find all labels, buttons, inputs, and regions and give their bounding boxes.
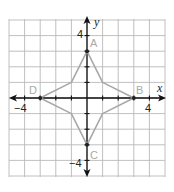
- vertex-d: [38, 96, 42, 100]
- point-label-a: A: [90, 37, 98, 49]
- vertex-a: [85, 49, 89, 53]
- vertex-c: [85, 143, 89, 147]
- y-axis-label: y: [93, 15, 100, 29]
- x-axis-label: x: [156, 81, 163, 95]
- x-tick-label-4: 4: [145, 102, 151, 114]
- point-label-c: C: [90, 149, 98, 161]
- axes: [9, 16, 166, 177]
- x-tick-label-neg4: −4: [14, 102, 27, 114]
- y-tick-label-neg4: −4: [69, 157, 82, 169]
- vertex-b: [132, 96, 136, 100]
- point-label-b: B: [136, 84, 143, 96]
- coordinate-plane: x y −4 4 4 −4 A B C D: [0, 0, 174, 192]
- y-tick-label-4: 4: [77, 28, 83, 40]
- point-label-d: D: [29, 84, 37, 96]
